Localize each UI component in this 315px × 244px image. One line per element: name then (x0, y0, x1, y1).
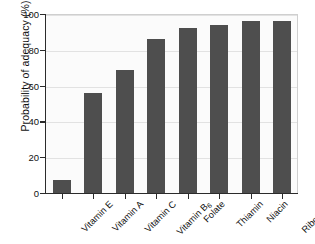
x-tick-mark (62, 194, 63, 199)
x-axis-tick-labels: Vitamin EVitamin AVitamin CVitamin B6Fol… (0, 0, 315, 244)
x-tick-label: Thiamin (235, 199, 265, 229)
x-tick-label: Riboflavin (300, 199, 315, 235)
figure-caption (4, 236, 311, 243)
y-tick-mark (40, 157, 45, 158)
y-tick-mark (40, 86, 45, 87)
x-tick-label: Niacin (264, 199, 289, 224)
x-tick-mark (125, 194, 126, 199)
x-tick-mark (156, 194, 157, 199)
x-tick-mark (282, 194, 283, 199)
x-tick-mark (93, 194, 94, 199)
y-tick-mark (40, 50, 45, 51)
x-tick-mark (188, 194, 189, 199)
y-tick-mark (40, 14, 45, 15)
x-tick-label: Vitamin C (143, 199, 178, 234)
y-tick-mark (40, 121, 45, 122)
x-tick-mark (251, 194, 252, 199)
x-tick-label: Vitamin E (79, 199, 114, 234)
y-tick-mark (40, 193, 45, 194)
figure-bar-chart: Probability of adequacy (%) 020406080100… (0, 0, 315, 244)
x-tick-label: Vitamin A (111, 199, 146, 234)
x-tick-mark (219, 194, 220, 199)
